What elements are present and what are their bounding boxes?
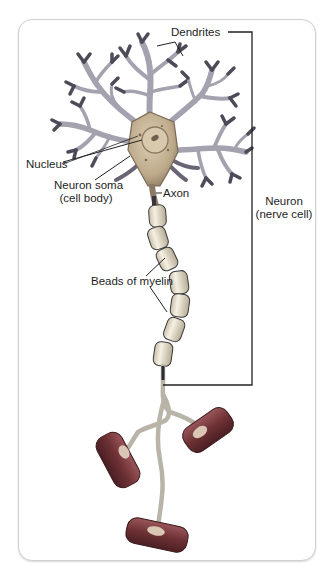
axon-terminal-bottom [124, 516, 190, 554]
axon-terminals [128, 366, 198, 528]
label-neuron-line1: Neuron [255, 195, 313, 208]
label-neuron-line2: (nerve cell) [252, 208, 316, 221]
label-soma-line2: (cell body) [54, 192, 118, 205]
label-axon: Axon [163, 187, 189, 200]
label-dendrites: Dendrites [171, 26, 220, 39]
axon-terminal-right [179, 404, 238, 457]
neuron-diagram: Dendrites Nucleus Neuron soma (cell body… [0, 0, 333, 571]
neuron-soma [128, 112, 178, 186]
label-myelin: Beads of myelin [91, 275, 173, 288]
label-soma-line1: Neuron soma [54, 179, 118, 192]
label-nucleus: Nucleus [26, 158, 68, 171]
